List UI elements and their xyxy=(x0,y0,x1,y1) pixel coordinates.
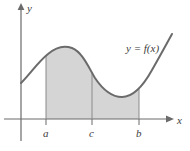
x-axis-label: x xyxy=(176,114,182,126)
x-axis-arrowhead-icon xyxy=(166,116,174,123)
tick-label-a: a xyxy=(43,127,49,139)
y-axis-arrowhead-icon xyxy=(18,3,25,10)
y-axis-label: y xyxy=(26,2,32,14)
tick-label-c: c xyxy=(89,127,94,139)
curve-equation-label: y = f(x) xyxy=(125,42,159,55)
area-under-curve-figure: y x y = f(x) a c b xyxy=(0,0,190,151)
graph-canvas: y x y = f(x) a c b xyxy=(0,0,190,151)
tick-label-b: b xyxy=(136,127,142,139)
